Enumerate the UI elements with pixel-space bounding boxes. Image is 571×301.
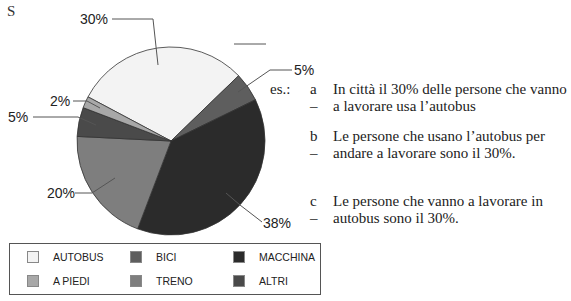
example-text: In città il 30% delle persone che vanno … (333, 81, 571, 115)
legend-swatch-altri (233, 275, 245, 287)
legend-label-altri: ALTRI (259, 275, 288, 287)
legend-label-treno: TRENO (156, 275, 193, 287)
example-letter: b – (310, 128, 318, 162)
label-piedi: 2% (50, 93, 70, 109)
legend-swatch-treno (130, 275, 142, 287)
label-autobus: 30% (80, 11, 108, 27)
label-macchina: 38% (263, 215, 291, 231)
legend-label-macchina: MACCHINA (259, 251, 315, 263)
legend-label-autobus: AUTOBUS (53, 251, 104, 263)
legend-swatch-bici (130, 251, 142, 263)
legend-swatch-autobus (27, 251, 39, 263)
label-bici: 5% (294, 62, 314, 78)
example-text: Le persone che vanno a lavorare in autob… (333, 193, 571, 227)
examples-prefix: es.: (270, 81, 290, 98)
label-altri: 5% (8, 109, 28, 125)
example-letter: c – (310, 193, 318, 227)
legend: AUTOBUS BICI MACCHINA A PIEDI TRENO ALTR… (9, 243, 321, 295)
example-letter: a – (310, 81, 318, 115)
label-treno: 20% (47, 185, 75, 201)
legend-swatch-piedi (27, 275, 39, 287)
example-text: Le persone che usano l’autobus per andar… (333, 128, 571, 162)
legend-label-bici: BICI (156, 251, 176, 263)
legend-label-piedi: A PIEDI (53, 275, 90, 287)
legend-swatch-macchina (233, 251, 245, 263)
pie-slices (77, 47, 265, 235)
